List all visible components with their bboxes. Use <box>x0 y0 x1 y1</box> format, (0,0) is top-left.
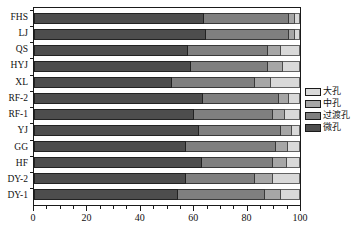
x-axis-major-tick <box>33 206 34 211</box>
bar-row <box>34 173 300 184</box>
y-axis-label: DY-1 <box>0 190 31 201</box>
bar-segment <box>281 125 292 136</box>
bar-segment <box>295 29 300 40</box>
y-axis-label: QS <box>0 44 31 55</box>
bar-segment <box>34 189 178 200</box>
x-axis-minor-tick <box>273 206 274 209</box>
bar-segment <box>34 157 202 168</box>
legend-item: 微孔 <box>305 122 355 133</box>
bar-segment <box>34 109 194 120</box>
bar-segment <box>295 13 300 24</box>
legend-swatch <box>305 124 321 132</box>
y-axis-label: RF-2 <box>0 93 31 104</box>
x-axis-minor-tick <box>60 206 61 209</box>
x-axis-minor-tick <box>180 206 181 209</box>
x-axis-minor-tick <box>207 206 208 209</box>
bar-segment <box>273 109 285 120</box>
bar-segment <box>34 45 188 56</box>
bar-segment <box>202 157 274 168</box>
bar-row <box>34 45 300 56</box>
y-axis-label: HF <box>0 158 31 169</box>
legend-item: 中孔 <box>305 98 355 109</box>
x-axis-major-tick <box>193 206 194 211</box>
bar-segment <box>265 189 281 200</box>
x-axis-minor-tick <box>153 206 154 209</box>
legend-swatch <box>305 88 321 96</box>
bar-segment <box>186 173 255 184</box>
bar-row <box>34 189 300 200</box>
y-axis-label: LJ <box>0 28 31 39</box>
bar-segment <box>172 77 254 88</box>
legend-label: 中孔 <box>323 99 341 108</box>
bar-row <box>34 29 300 40</box>
bar-segment <box>288 141 300 152</box>
legend-item: 大孔 <box>305 86 355 97</box>
x-axis-major-tick <box>86 206 87 211</box>
legend-swatch <box>305 100 321 108</box>
legend-label: 微孔 <box>323 123 341 132</box>
bar-segment <box>188 45 268 56</box>
bar-segment <box>203 93 279 104</box>
bar-segment <box>34 29 206 40</box>
bar-segment <box>34 13 204 24</box>
bar-segment <box>273 173 300 184</box>
bar-segment <box>292 125 300 136</box>
x-axis-minor-tick <box>287 206 288 209</box>
bar-segment <box>34 61 191 72</box>
legend-label: 大孔 <box>323 87 341 96</box>
x-axis-tick-label: 80 <box>242 212 252 223</box>
bar-row <box>34 109 300 120</box>
bar-segment <box>199 125 281 136</box>
bar-segment <box>287 157 300 168</box>
bar-segment <box>191 61 268 72</box>
x-axis-tick-label: 40 <box>135 212 145 223</box>
bar-row <box>34 13 300 24</box>
bar-segment <box>34 77 172 88</box>
bar-segment <box>271 77 300 88</box>
y-axis-category-labels: FHSLJQSHYJXLRF-2RF-1YJGGHFDY-2DY-1 <box>0 7 31 206</box>
bar-row <box>34 77 300 88</box>
plot-area <box>33 7 301 206</box>
x-axis-minor-tick <box>220 206 221 209</box>
bar-row <box>34 93 300 104</box>
y-axis-label: FHS <box>0 12 31 23</box>
y-axis-label: XL <box>0 77 31 88</box>
bar-segment <box>268 45 281 56</box>
x-axis-minor-tick <box>167 206 168 209</box>
bar-segment <box>34 173 186 184</box>
bar-row <box>34 141 300 152</box>
x-axis-minor-tick <box>100 206 101 209</box>
x-axis-tick-label: 60 <box>188 212 198 223</box>
bar-segment <box>34 141 186 152</box>
x-axis-tick-labels: 020406080100 <box>33 212 301 228</box>
y-axis-label: HYJ <box>0 60 31 71</box>
y-axis-label: DY-2 <box>0 174 31 185</box>
bar-segment <box>34 125 199 136</box>
y-axis-label: YJ <box>0 125 31 136</box>
bar-row <box>34 125 300 136</box>
bar-row <box>34 157 300 168</box>
bar-segment <box>255 77 271 88</box>
legend-label: 过渡孔 <box>323 111 350 120</box>
legend-item: 过渡孔 <box>305 110 355 121</box>
x-axis-minor-tick <box>260 206 261 209</box>
x-axis-minor-tick <box>113 206 114 209</box>
bar-segment <box>34 93 203 104</box>
bar-segment <box>281 189 300 200</box>
stacked-bar-series <box>34 8 300 205</box>
x-axis-minor-tick <box>73 206 74 209</box>
x-axis-major-tick <box>300 206 301 211</box>
bar-segment <box>194 109 274 120</box>
x-axis-major-tick <box>140 206 141 211</box>
bar-segment <box>204 13 289 24</box>
bar-segment <box>268 61 283 72</box>
chart-figure: FHSLJQSHYJXLRF-2RF-1YJGGHFDY-2DY-1 02040… <box>0 0 356 239</box>
bar-segment <box>186 141 276 152</box>
y-axis-label: RF-1 <box>0 109 31 120</box>
bar-segment <box>279 93 290 104</box>
bar-segment <box>178 189 266 200</box>
x-axis-minor-tick <box>233 206 234 209</box>
y-axis-label: GG <box>0 142 31 153</box>
x-axis-tick-label: 20 <box>81 212 91 223</box>
x-axis-tick-label: 0 <box>31 212 36 223</box>
